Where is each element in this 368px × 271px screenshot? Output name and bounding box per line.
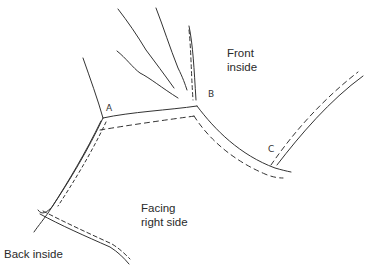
point-label-b: B xyxy=(208,89,214,99)
label-back-inside: Back inside xyxy=(4,247,63,261)
seam-b-c xyxy=(197,106,291,172)
left-upper-line xyxy=(83,58,103,118)
label-facing-right-side: Facing right side xyxy=(141,201,188,229)
fan-line-2 xyxy=(117,51,178,98)
seam-a-b-dashed xyxy=(100,116,195,130)
seam-a-down xyxy=(34,118,103,232)
seam-a-down-2 xyxy=(38,121,101,213)
seam-a-down-dashed xyxy=(58,122,106,206)
point-label-a: A xyxy=(106,103,112,113)
diagram-canvas xyxy=(0,0,368,271)
seam-c-right xyxy=(277,76,363,165)
fan-line-3 xyxy=(156,8,187,90)
label-front-inside: Front inside xyxy=(227,46,257,74)
seam-c-right-dashed xyxy=(271,72,358,165)
point-label-c: C xyxy=(268,144,274,154)
seam-a-b xyxy=(103,106,197,118)
